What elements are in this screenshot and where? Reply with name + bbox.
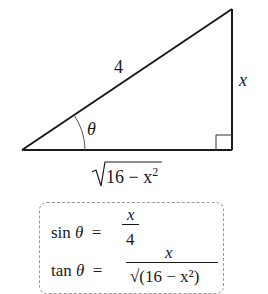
hypotenuse-label: 4	[114, 58, 123, 76]
adjacent-label: 16 − x2	[106, 166, 158, 186]
sin-equals: =	[92, 223, 102, 242]
tan-equals: =	[93, 261, 103, 280]
right-angle-marker	[216, 135, 232, 150]
adjacent-exponent: 2	[152, 165, 158, 179]
tan-function: tan	[51, 261, 72, 280]
tan-fraction-bar	[126, 262, 218, 263]
angle-label: θ	[87, 120, 96, 138]
adjacent-radicand: 16 − x	[106, 167, 152, 187]
sin-numerator: x	[127, 206, 135, 223]
tan-lhs: tan θ =	[51, 262, 102, 279]
angle-arc	[74, 115, 85, 150]
sin-lhs: sin θ =	[51, 224, 101, 241]
tan-denominator: √(16 − x²)	[130, 268, 199, 285]
hypotenuse-side	[22, 9, 232, 150]
opposite-label: x	[239, 71, 247, 89]
sin-fraction-bar	[122, 224, 139, 225]
tan-numerator: x	[165, 244, 173, 261]
tan-theta: θ	[76, 261, 84, 280]
sin-theta: θ	[75, 223, 83, 242]
sin-function: sin	[51, 223, 71, 242]
sin-denominator: 4	[126, 231, 135, 248]
